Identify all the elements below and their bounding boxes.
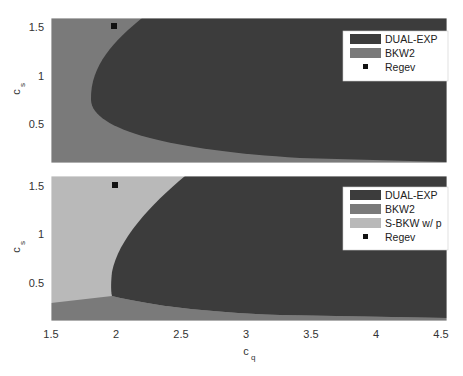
legend-label: DUAL-EXP: [385, 33, 438, 45]
legend-label: DUAL-EXP: [385, 189, 438, 201]
regev-marker: [112, 182, 118, 188]
legend-bottom: DUAL-EXP BKW2 S-BKW w/ p Regev: [343, 187, 448, 250]
ytick-label: 1.5: [29, 180, 44, 192]
xtick-label: 2: [113, 328, 119, 340]
xtick-label: 1.5: [43, 328, 58, 340]
x-axis-label: c q: [243, 345, 255, 362]
ytick-label: 0.5: [29, 118, 44, 130]
legend-label: S-BKW w/ p: [385, 217, 442, 229]
legend-swatch-dual-exp: [350, 190, 381, 200]
legend-swatch-dual-exp: [350, 34, 381, 44]
legend-swatch-regev: [363, 234, 368, 239]
svg-text:c: c: [10, 247, 22, 253]
legend-label: BKW2: [385, 47, 415, 59]
legend-swatch-regev: [363, 64, 368, 69]
xtick-label: 3.5: [303, 328, 318, 340]
ytick-label: 1.5: [29, 21, 44, 33]
xtick-label: 2.5: [173, 328, 188, 340]
xtick-label: 4.5: [433, 328, 448, 340]
y-axis-label: c s: [10, 241, 27, 253]
top-plot: 1.5 1 0.5 c s DUAL-EXP BKW2 Regev: [10, 18, 448, 163]
svg-text:s: s: [18, 241, 27, 245]
svg-text:c: c: [10, 89, 22, 95]
y-axis-label: c s: [10, 83, 27, 95]
legend-top: DUAL-EXP BKW2 Regev: [343, 31, 448, 81]
ytick-label: 1: [38, 228, 44, 240]
regev-marker: [111, 23, 117, 29]
legend-swatch-bkw2: [350, 204, 381, 214]
ytick-label: 1: [38, 70, 44, 82]
legend-label: BKW2: [385, 203, 415, 215]
figure: 1.5 1 0.5 c s DUAL-EXP BKW2 Regev 1.5 1 …: [0, 0, 463, 376]
xtick-label: 3: [243, 328, 249, 340]
svg-text:q: q: [251, 353, 255, 362]
svg-text:s: s: [18, 83, 27, 87]
ytick-label: 0.5: [29, 277, 44, 289]
bottom-plot: 1.5 1 0.5 c s 1.5 2 2.5 3 3.5 4 4.5 c q …: [10, 176, 449, 362]
xtick-label: 4: [373, 328, 379, 340]
legend-swatch-sbkw: [350, 218, 381, 228]
legend-label: Regev: [385, 61, 416, 73]
svg-text:c: c: [243, 345, 249, 357]
legend-swatch-bkw2: [350, 48, 381, 58]
legend-label: Regev: [385, 231, 416, 243]
